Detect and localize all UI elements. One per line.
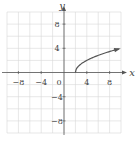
curve-arrow-icon [114,48,121,52]
x-tick-label: −4 [35,77,47,86]
y-tick-label: −8 [51,116,63,125]
x-tick-label: 0 [56,77,61,86]
y-tick-label: 4 [54,44,59,53]
x-tick-label: 8 [107,77,112,86]
function-curve [75,49,118,73]
x-tick-label: −8 [12,77,24,86]
x-tick-label: 4 [84,77,89,86]
x-axis-label: x [129,66,135,77]
x-axis-arrow-icon [122,71,127,75]
y-tick-label: −4 [51,92,63,101]
y-tick-label: 8 [54,20,59,29]
y-axis-label: y [59,0,65,11]
coordinate-plane [0,0,137,147]
